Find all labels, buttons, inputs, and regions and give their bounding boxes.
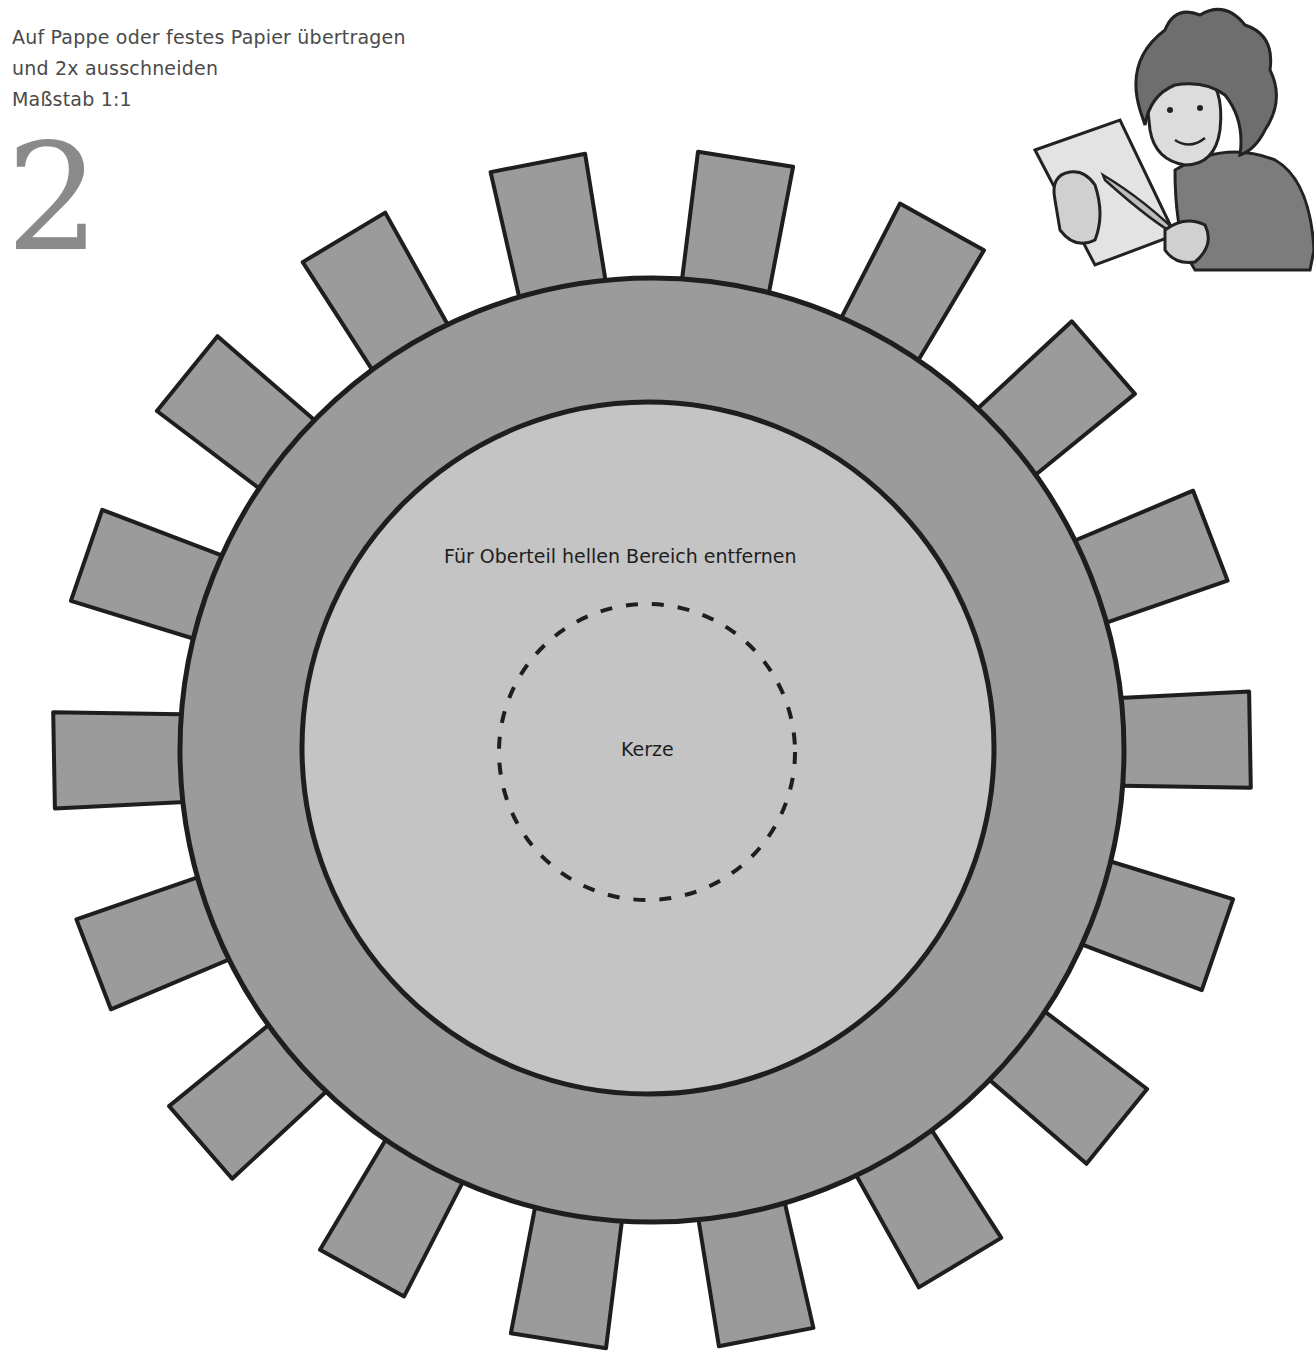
boy-illustration-icon: [1025, 0, 1314, 275]
remove-area-label: Für Oberteil hellen Bereich entfernen: [444, 545, 797, 567]
candle-label: Kerze: [621, 738, 674, 760]
